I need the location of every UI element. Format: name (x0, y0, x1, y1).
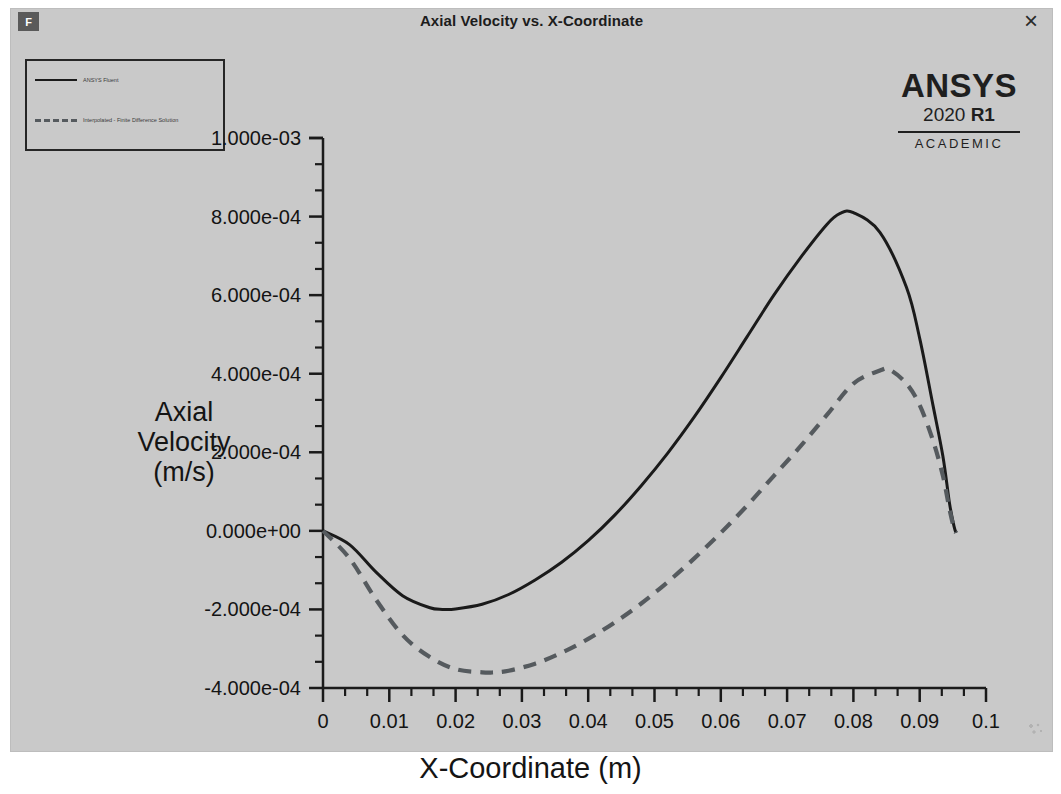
y-tick-label: -2.000e-04 (204, 598, 301, 620)
x-tick-label: 0.02 (436, 710, 475, 732)
y-tick-label: 8.000e-04 (211, 206, 301, 228)
plot-window: F Axial Velocity vs. X-Coordinate × ANSY… (10, 8, 1053, 752)
x-tick-label: 0 (317, 710, 328, 732)
x-tick-label: 0.03 (502, 710, 541, 732)
y-tick-label: 2.000e-04 (211, 441, 301, 463)
x-tick-label: 0.04 (569, 710, 608, 732)
x-tick-label: 0.1 (972, 710, 1000, 732)
x-tick-label: 0.08 (834, 710, 873, 732)
y-tick-label: 0.000e+00 (206, 520, 301, 542)
series-line-fluent (323, 211, 956, 610)
page-artifact (1027, 722, 1045, 736)
series-line-interpolated (323, 368, 956, 672)
chart-plot: 1.000e-038.000e-046.000e-044.000e-042.00… (11, 9, 1052, 751)
x-axis-label: X-Coordinate (m) (0, 752, 1061, 785)
y-tick-label: 1.000e-03 (211, 127, 301, 149)
x-tick-label: 0.06 (701, 710, 740, 732)
x-tick-label: 0.07 (768, 710, 807, 732)
screenshot-root: F Axial Velocity vs. X-Coordinate × ANSY… (0, 0, 1061, 794)
x-tick-label: 0.05 (635, 710, 674, 732)
x-tick-label: 0.01 (370, 710, 409, 732)
y-tick-label: 4.000e-04 (211, 363, 301, 385)
y-tick-label: 6.000e-04 (211, 284, 301, 306)
x-tick-label: 0.09 (900, 710, 939, 732)
y-tick-label: -4.000e-04 (204, 677, 301, 699)
